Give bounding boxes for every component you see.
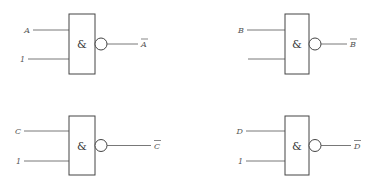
output-label: B (349, 40, 356, 49)
inversion-bubble-icon (95, 140, 107, 152)
and-symbol: & (292, 38, 302, 51)
nand-gate-diagram: A1&AB&BC1&CD1&D (0, 0, 378, 193)
input-label-1: A (23, 26, 30, 35)
input-label-1: D (236, 127, 244, 136)
gate-a: A1&A (20, 14, 148, 74)
inversion-bubble-icon (309, 38, 321, 50)
gate-d: D1&D (236, 116, 361, 175)
and-symbol: & (292, 140, 302, 153)
and-symbol: & (77, 140, 87, 153)
input-label-2: 1 (238, 157, 243, 166)
output-label: D (353, 142, 361, 151)
gate-c: C1&C (15, 116, 161, 175)
and-symbol: & (77, 38, 87, 51)
inversion-bubble-icon (95, 38, 107, 50)
inversion-bubble-icon (309, 140, 321, 152)
input-label-2: 1 (20, 55, 25, 64)
input-label-1: C (15, 127, 21, 136)
input-label-2: 1 (16, 157, 21, 166)
output-label: C (154, 142, 160, 151)
input-label-1: B (237, 26, 244, 35)
output-label: A (140, 40, 147, 49)
gate-b: B&B (237, 14, 357, 74)
